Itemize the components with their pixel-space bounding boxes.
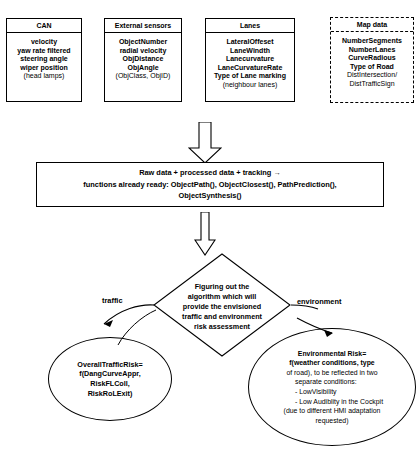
item-note: (neighbour lanes): [208, 81, 292, 90]
process-line-3: ObjectSynthesis(): [179, 191, 242, 200]
down-block-arrow-icon: [194, 212, 216, 256]
env-line-8: requested): [281, 416, 383, 426]
decision-diamond-text: Figuring out the algorithm which will pr…: [152, 272, 292, 342]
env-line-5: - LowVisibility: [281, 387, 383, 397]
source-box-map-data: Map data NumberSegments NumberLanes Curv…: [330, 17, 414, 103]
item: Type of Lane marking: [208, 72, 292, 81]
outcome-environment-text: Environmental Risk= f(weather conditions…: [253, 336, 411, 438]
item: LaneCurvatureRate: [208, 64, 292, 73]
source-box-can-title: CAN: [7, 19, 81, 33]
item: ObjectNumber: [107, 38, 179, 47]
process-box-raw-data: Raw data + processed data + tracking → f…: [36, 162, 384, 207]
source-box-can: CAN velocity yaw rate filtered steering …: [6, 18, 82, 102]
source-box-external-sensors-items: ObjectNumber radial velocity ObjDistance…: [105, 33, 181, 84]
decision-line-1: Figuring out the: [195, 282, 250, 291]
item: yaw rate filtered: [9, 47, 79, 56]
item-note: (head lamps): [9, 72, 79, 81]
source-box-map-data-items: NumberSegments NumberLanes CurveRadious …: [331, 32, 413, 92]
decision-line-5: risk assessment: [194, 322, 250, 331]
arrowhead-traffic: [104, 320, 113, 327]
item: NumberLanes: [333, 46, 411, 55]
connector-traffic: [104, 305, 154, 324]
decision-line-4: traffic and environment: [182, 312, 262, 321]
decision-line-2: algorithm which will: [188, 292, 257, 301]
env-line-3: of road), to be reflected in two: [281, 368, 383, 378]
item: LaneWindth: [208, 47, 292, 56]
item: radial velocity: [107, 47, 179, 56]
item: ObjAngle: [107, 64, 179, 73]
env-line-1: Environmental Risk=: [281, 349, 383, 359]
item: Lanecurvature: [208, 55, 292, 64]
decision-line-3: provide the envisioned: [183, 302, 261, 311]
branch-label-environment: environment: [297, 297, 341, 306]
traffic-line-2: f(DangCurveAppr,: [79, 369, 141, 378]
env-line-6: - Low Audiblity in the Cockpit: [281, 397, 383, 407]
source-box-external-sensors: External sensors ObjectNumber radial vel…: [104, 18, 182, 102]
item: velocity: [9, 38, 79, 47]
traffic-line-1: OverallTrafficRisk=: [77, 360, 142, 369]
flowchart-canvas: CAN velocity yaw rate filtered steering …: [0, 0, 420, 453]
traffic-line-4: RiskRoLExit): [88, 389, 133, 398]
process-line-2: functions already ready: ObjectPath(), O…: [83, 180, 336, 189]
source-box-lanes: Lanes LateralOffeset LaneWindth Lanecurv…: [205, 18, 295, 102]
down-block-arrow-icon: [188, 122, 222, 164]
item-note: (ObjClass, ObjID): [107, 72, 179, 81]
traffic-line-3: RiskFLColl,: [90, 379, 130, 388]
source-box-map-data-title: Map data: [331, 18, 413, 32]
process-box-text: Raw data + processed data + tracking → f…: [77, 167, 342, 202]
env-line-4: separate conditions:: [281, 377, 383, 387]
source-box-lanes-items: LateralOffeset LaneWindth Lanecurvature …: [206, 33, 294, 93]
env-line-2: f(weather conditions, type: [281, 358, 383, 368]
item-note: DistIntersection/: [333, 71, 411, 80]
item: ObjDistance: [107, 55, 179, 64]
source-box-lanes-title: Lanes: [206, 19, 294, 33]
item: wiper position: [9, 64, 79, 73]
item: steering angle: [9, 55, 79, 64]
item: CurveRadious: [333, 54, 411, 63]
source-box-can-items: velocity yaw rate filtered steering angl…: [7, 33, 81, 84]
item-note: DistTrafficSign: [333, 80, 411, 89]
outcome-traffic-text: OverallTrafficRisk= f(DangCurveAppr, Ris…: [52, 345, 168, 413]
branch-label-traffic: traffic: [102, 296, 123, 305]
item: NumberSegments: [333, 37, 411, 46]
item: Type of Road: [333, 63, 411, 72]
process-line-1: Raw data + processed data + tracking →: [139, 168, 281, 177]
source-box-external-sensors-title: External sensors: [105, 19, 181, 33]
item: LateralOffeset: [208, 38, 292, 47]
env-line-7: (due to different HMI adaptation: [281, 406, 383, 416]
